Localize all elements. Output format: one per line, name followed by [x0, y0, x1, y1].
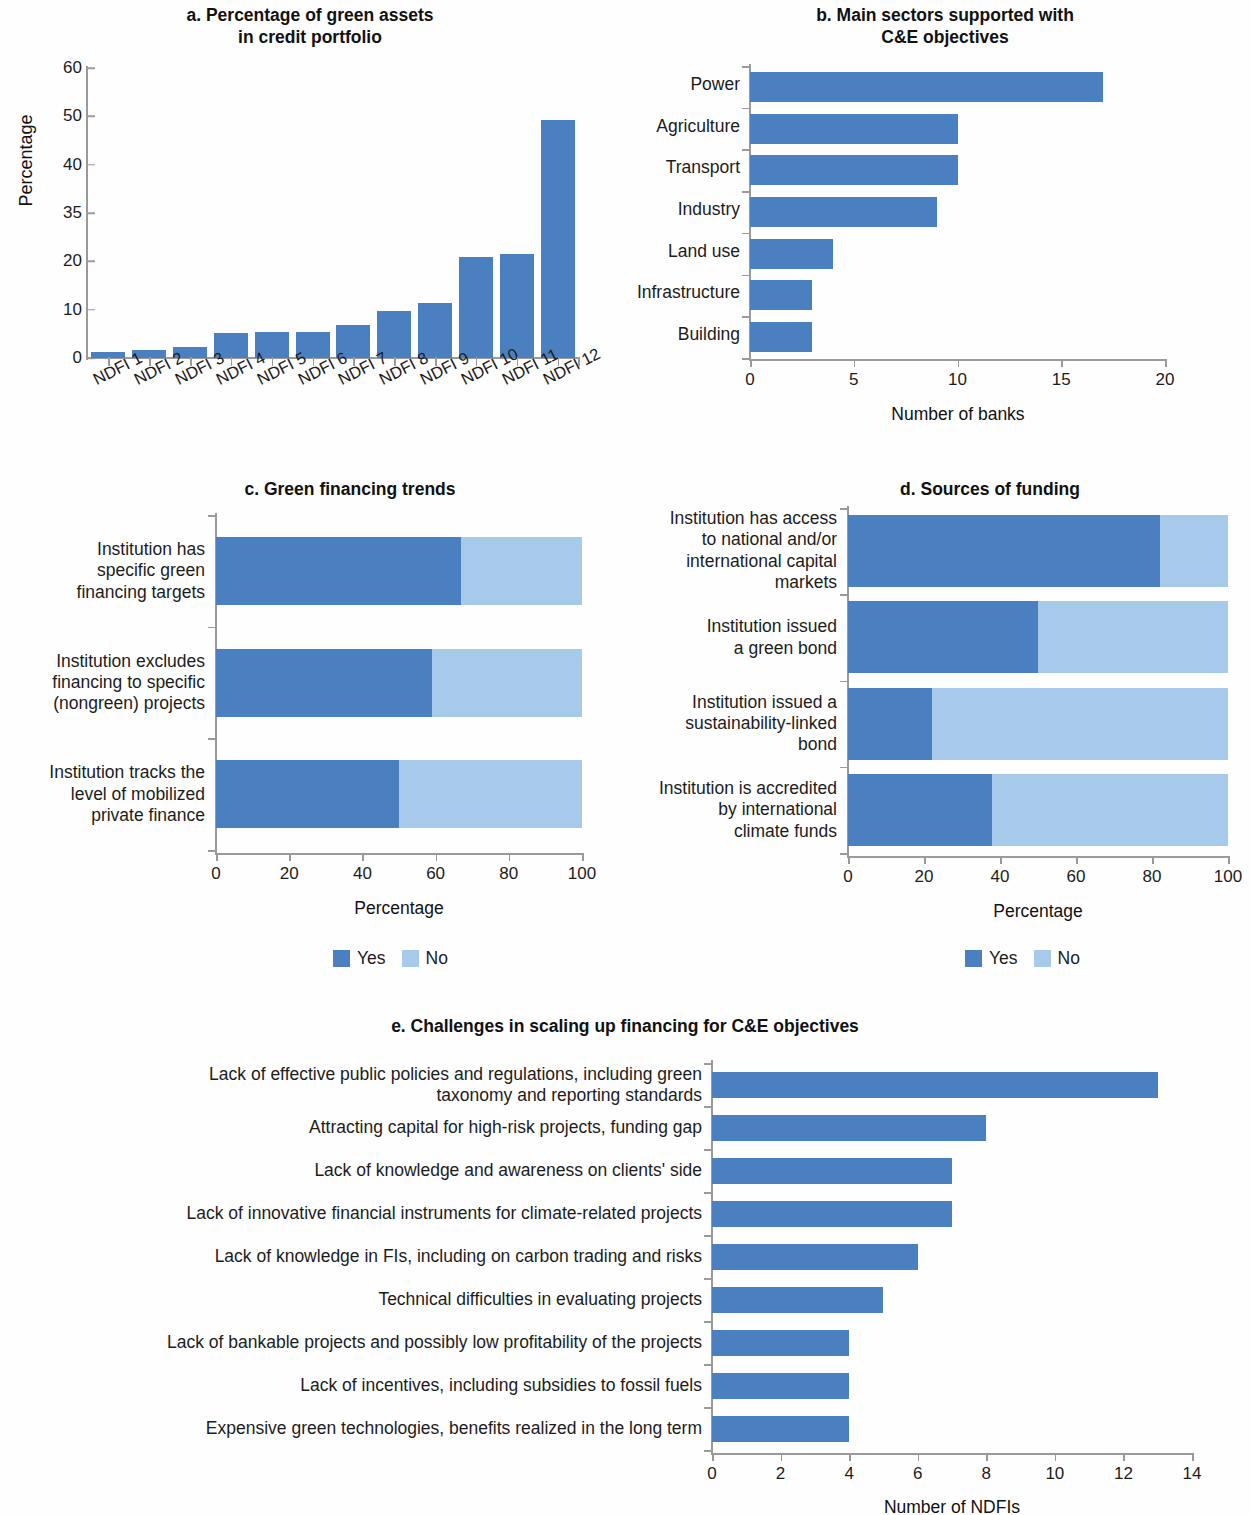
panel-a-plot-area — [88, 68, 578, 358]
panel-e-x-tick-label: 0 — [707, 1464, 716, 1484]
panel-a-y-tick-label: 20 — [20, 251, 82, 271]
panel-c-y-tick-mark — [208, 627, 216, 629]
panel-e-category-label: Lack of bankable projects and possibly l… — [62, 1332, 702, 1353]
panel-d-category-label: Institution issued asustainability-linke… — [607, 692, 837, 756]
panel-c-segment-no — [432, 649, 582, 717]
panel-e-x-tick-label: 8 — [982, 1464, 991, 1484]
panel-d-x-axis-title: Percentage — [847, 901, 1229, 922]
panel-b-y-tick-mark — [742, 233, 750, 235]
panel-d-stacked-row: Institution is accreditedby internationa… — [848, 774, 1228, 846]
panel-c-category-label: Institution hasspecific greenfinancing t… — [0, 539, 205, 603]
panel-b-x-tick-mark — [1061, 359, 1063, 367]
panel-b-category-label: Power — [550, 74, 740, 95]
legend-swatch-no-icon — [402, 950, 419, 967]
panel-b-title: b. Main sectors supported with C&E objec… — [710, 4, 1180, 49]
panel-d-x-tick-mark — [848, 856, 850, 864]
panel-a-y-tick-label: 60 — [20, 58, 82, 78]
panel-b-x-tick-label: 20 — [1156, 370, 1175, 390]
panel-e-y-tick-mark — [704, 1149, 712, 1151]
panel-e-x-tick-label: 14 — [1183, 1464, 1202, 1484]
panel-c-x-axis-title: Percentage — [215, 898, 583, 919]
panel-b-y-tick-mark — [742, 275, 750, 277]
panel-c-legend-yes: Yes — [333, 948, 386, 969]
panel-e-title: e. Challenges in scaling up financing fo… — [300, 1015, 950, 1037]
panel-c-x-tick-mark — [509, 853, 511, 861]
panel-b-y-tick-mark — [742, 316, 750, 318]
panel-d-plot-area: Institution has accessto national and/or… — [848, 508, 1228, 853]
panel-d-category-label: Institution is accreditedby internationa… — [607, 778, 837, 842]
panel-d-x-axis-line — [847, 856, 1229, 858]
panel-c-x-tick-label: 80 — [499, 864, 518, 884]
panel-e-bar — [712, 1244, 918, 1270]
panel-e-x-tick-mark — [712, 1453, 714, 1461]
panel-c-y-tick-mark — [208, 515, 216, 517]
panel-d-legend: Yes No — [965, 948, 1080, 969]
panel-e-category-label: Lack of innovative financial instruments… — [62, 1203, 702, 1224]
panel-a-y-tick-label: 0 — [20, 348, 82, 368]
panel-c-segment-yes — [216, 760, 399, 828]
panel-c-stacked-row: Institution excludesfinancing to specifi… — [216, 649, 582, 717]
panel-b-y-tick-mark — [742, 358, 750, 360]
panel-d-stacked-row: Institution has accessto national and/or… — [848, 515, 1228, 587]
panel-b-bar — [750, 155, 958, 185]
panel-e-plot-area: Lack of effective public policies and re… — [712, 1063, 1192, 1450]
panel-c-segment-yes — [216, 537, 461, 605]
panel-e-y-tick-mark — [704, 1321, 712, 1323]
panel-e-x-tick-mark — [1123, 1453, 1125, 1461]
panel-b-x-tick-label: 0 — [745, 370, 754, 390]
panel-c-x-tick-label: 100 — [568, 864, 596, 884]
panel-e-category-label: Lack of effective public policies and re… — [62, 1064, 702, 1106]
panel-e-bar — [712, 1330, 849, 1356]
panel-d-segment-yes — [848, 688, 932, 760]
panel-e-category-label: Technical difficulties in evaluating pro… — [62, 1289, 702, 1310]
panel-e-bar — [712, 1201, 952, 1227]
panel-b-bar — [750, 197, 937, 227]
panel-c-category-label: Institution tracks thelevel of mobilized… — [0, 762, 205, 826]
panel-e-category-label: Expensive green technologies, benefits r… — [62, 1418, 702, 1439]
panel-c-legend-yes-label: Yes — [357, 948, 386, 969]
panel-d-legend-no-label: No — [1058, 948, 1080, 969]
panel-e-x-tick-label: 6 — [913, 1464, 922, 1484]
panel-c-plot-area: Institution hasspecific greenfinancing t… — [216, 515, 582, 850]
panel-b-bar — [750, 322, 812, 352]
panel-b-category-label: Transport — [550, 157, 740, 178]
panel-d-stacked-row: Institution issueda green bond — [848, 601, 1228, 673]
panel-c-x-tick-mark — [216, 853, 218, 861]
panel-d-x-tick-mark — [1152, 856, 1154, 864]
panel-c-legend-no: No — [402, 948, 448, 969]
panel-d-segment-no — [1160, 515, 1228, 587]
panel-d-segment-yes — [848, 601, 1038, 673]
panel-d-x-tick-label: 0 — [843, 867, 852, 887]
panel-c-y-tick-mark — [208, 738, 216, 740]
panel-d-y-tick-mark — [840, 594, 848, 596]
panel-a-title-line2: in credit portfolio — [238, 27, 382, 47]
panel-d-y-tick-mark — [840, 681, 848, 683]
panel-d-segment-yes — [848, 515, 1160, 587]
panel-c-segment-yes — [216, 649, 432, 717]
panel-c-legend-no-label: No — [426, 948, 448, 969]
panel-d-x-tick-label: 60 — [1067, 867, 1086, 887]
panel-d-x-tick-label: 20 — [915, 867, 934, 887]
panel-e-x-tick-label: 12 — [1114, 1464, 1133, 1484]
legend-swatch-yes-icon — [965, 950, 982, 967]
panel-d-category-label: Institution issueda green bond — [607, 616, 837, 659]
panel-b-category-label: Infrastructure — [550, 282, 740, 303]
panel-c-x-tick-label: 40 — [353, 864, 372, 884]
panel-e-x-tick-mark — [1192, 1453, 1194, 1461]
panel-e-category-label: Lack of knowledge and awareness on clien… — [62, 1160, 702, 1181]
panel-b-bar — [750, 72, 1103, 102]
panel-e-bar — [712, 1072, 1158, 1098]
panel-c-x-tick-mark — [436, 853, 438, 861]
panel-d-x-tick-mark — [1228, 856, 1230, 864]
panel-e-x-tick-label: 2 — [776, 1464, 785, 1484]
panel-c-x-tick-mark — [582, 853, 584, 861]
panel-a-green-assets: a. Percentage of green assets in credit … — [0, 0, 620, 455]
panel-d-segment-no — [932, 688, 1228, 760]
panel-b-main-sectors: b. Main sectors supported with C&E objec… — [620, 0, 1251, 455]
panel-a-title-line1: a. Percentage of green assets — [186, 5, 433, 25]
panel-e-x-tick-mark — [986, 1453, 988, 1461]
panel-c-x-tick-mark — [362, 853, 364, 861]
panel-d-segment-no — [992, 774, 1228, 846]
panel-d-x-tick-mark — [1076, 856, 1078, 864]
panel-a-bar — [541, 120, 575, 358]
